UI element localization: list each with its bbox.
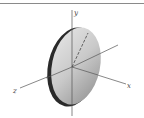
y-axis-label: y [73, 9, 79, 17]
z-axis-label: z [12, 87, 17, 95]
disk-axes-diagram: y x z [0, 0, 144, 118]
x-axis-label: x [127, 82, 131, 90]
